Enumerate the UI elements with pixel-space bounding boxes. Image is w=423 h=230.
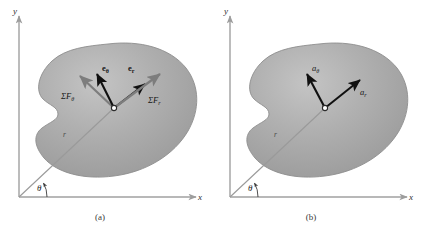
panel-a-y-axis-label: y xyxy=(12,6,17,16)
polar-coordinates-figure: θ r ΣFθ eθ er ΣFr y x (a) xyxy=(0,0,423,230)
panel-b-y-axis-label: y xyxy=(223,6,228,16)
panel-a: θ r ΣFθ eθ er ΣFr y x (a) xyxy=(12,6,202,222)
panel-a-x-axis-label: x xyxy=(197,192,202,202)
panel-b-radius-label: r xyxy=(274,130,277,139)
panel-a-center-point xyxy=(111,105,116,110)
panel-b: θ r aθ ar y x (b) xyxy=(223,6,413,222)
panel-b-theta-label: θ xyxy=(248,183,253,193)
panel-b-center-point xyxy=(322,105,327,110)
panel-b-theta-arc xyxy=(255,183,259,197)
panel-b-x-axis-label: x xyxy=(408,192,413,202)
panel-a-radius-label: r xyxy=(63,130,66,139)
panel-a-caption: (a) xyxy=(95,212,105,222)
panel-a-theta-label: θ xyxy=(37,183,42,193)
panel-a-theta-arc xyxy=(44,183,48,197)
panel-b-caption: (b) xyxy=(306,212,317,222)
